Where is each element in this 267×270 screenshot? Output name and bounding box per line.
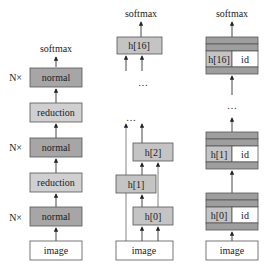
hidden-identity-block-h0: h[0] id: [206, 193, 258, 230]
ellipsis: …: [126, 112, 136, 123]
reduction-cell-label: reduction: [37, 177, 75, 188]
hidden-state-label: h[16]: [208, 54, 230, 65]
column-hidden-with-identity: softmax h[16] id … h[1] id: [206, 8, 258, 260]
identity-label: id: [241, 210, 249, 221]
hidden-state-label: h[0]: [211, 210, 228, 221]
image-label: image: [132, 245, 157, 256]
softmax-label: softmax: [216, 8, 248, 19]
normal-cell-label: normal: [42, 211, 71, 222]
hidden-state-label: h[16]: [128, 40, 150, 51]
architecture-diagram: softmax N× normal reduction N× normal re…: [0, 0, 267, 270]
softmax-label: softmax: [40, 43, 72, 54]
repeat-label: N×: [9, 142, 22, 153]
identity-label: id: [241, 54, 249, 65]
identity-label: id: [241, 149, 249, 160]
reduction-cell-label: reduction: [37, 107, 75, 118]
hidden-state-label: h[0]: [145, 211, 162, 222]
hidden-identity-block-h1: h[1] id: [206, 132, 258, 169]
hidden-state-label: h[2]: [145, 147, 162, 158]
hidden-state-label: h[1]: [211, 149, 228, 160]
hidden-state-label: h[1]: [128, 179, 145, 190]
repeat-label: N×: [9, 212, 22, 223]
repeat-label: N×: [9, 72, 22, 83]
ellipsis: …: [138, 77, 148, 88]
normal-cell-label: normal: [42, 142, 71, 153]
image-label: image: [44, 245, 69, 256]
image-label: image: [220, 245, 245, 256]
softmax-label: softmax: [125, 8, 157, 19]
column-stacked-cells: softmax N× normal reduction N× normal re…: [9, 43, 82, 260]
normal-cell-label: normal: [42, 72, 71, 83]
hidden-identity-block-h16: h[16] id: [206, 37, 258, 74]
ellipsis: …: [227, 100, 237, 111]
column-dense-hidden-states: softmax h[16] … … h[2] h[1] h[0] image: [116, 8, 173, 260]
